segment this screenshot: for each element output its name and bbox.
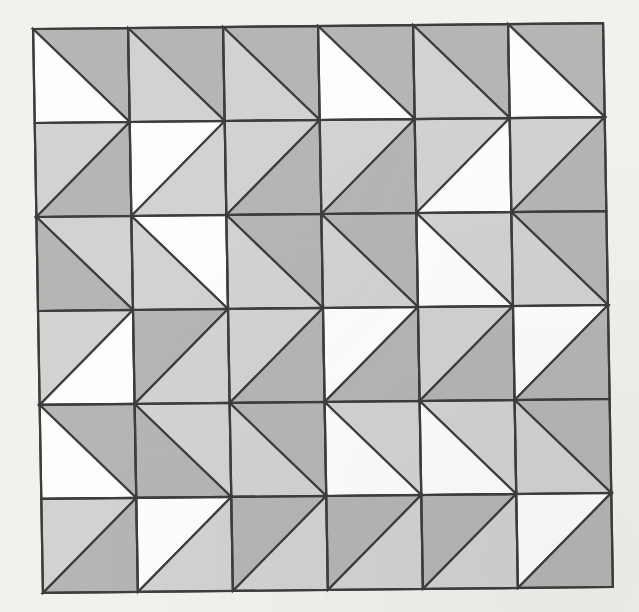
tiling-group bbox=[33, 23, 613, 593]
artwork-canvas bbox=[0, 0, 639, 612]
triangle-tiling-figure bbox=[0, 0, 639, 612]
